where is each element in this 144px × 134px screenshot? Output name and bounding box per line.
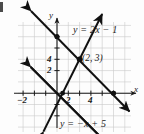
- graph-figure: −2 2 4 4 2 y x y = 2x − 1 y = −x + 5 (2,…: [0, 0, 144, 134]
- point-5-0-overlay: [111, 91, 116, 96]
- x-tick-label-neg2: −2: [17, 96, 27, 105]
- x-tick-label-2: 2: [66, 96, 71, 105]
- x-tick-label-4: 4: [88, 96, 93, 105]
- x-axis-name: x: [134, 85, 138, 94]
- equation-label-line2: y = −x + 5: [60, 119, 106, 129]
- y-tick-label-4: 4: [47, 55, 52, 64]
- intersection-point-label: (2, 3): [82, 54, 103, 64]
- line2-layer: [0, 0, 144, 134]
- point-0-5-overlay: [55, 34, 60, 39]
- equation-label-line1: y = 2x − 1: [73, 25, 117, 35]
- y-tick-label-2: 2: [47, 66, 52, 75]
- y-axis-name: y: [49, 11, 53, 20]
